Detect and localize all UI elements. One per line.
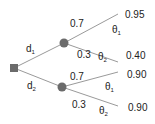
decision-node [10,64,18,72]
prob-label-lower-2: 0.3 [72,100,86,110]
payoff-value-2: 0.40 [126,51,145,61]
state-label-upper-2: θ2 [98,52,107,65]
decision-label-d1: d1 [26,44,35,57]
prob-label-upper-1: 0.7 [70,19,84,29]
payoff-value-4: 0.90 [128,103,147,113]
chance-node-lower [58,83,67,92]
payoff-value-3: 0.90 [127,70,146,80]
payoff-value-1: 0.95 [125,10,144,20]
prob-label-lower-1: 0.7 [70,72,84,82]
decision-label-d2: d2 [27,81,36,94]
prob-label-upper-2: 0.3 [77,50,91,60]
state-label-lower-2: θ2 [99,106,108,119]
state-label-lower-1: θ1 [105,82,114,95]
state-label-upper-1: θ1 [112,25,121,38]
chance-node-upper [60,39,69,48]
